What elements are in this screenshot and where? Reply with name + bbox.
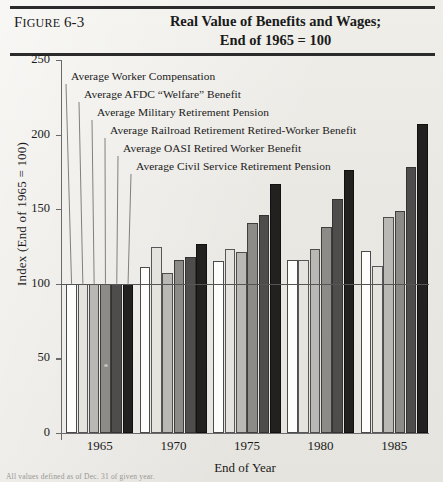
bar (66, 284, 77, 433)
figure-label-prefix: F (14, 14, 23, 30)
bar (213, 261, 224, 433)
bar (151, 247, 162, 434)
title-line-1: Real Value of Benefits and Wages; (120, 12, 431, 31)
bar (372, 266, 383, 433)
bar (111, 284, 122, 433)
bar (100, 284, 111, 433)
bar (78, 284, 89, 433)
bar (196, 244, 207, 433)
bar (270, 184, 281, 433)
y-axis-tick-label: 100 (4, 276, 50, 291)
header-rule-top (10, 6, 435, 9)
y-axis-tick-label: 250 (4, 52, 50, 67)
bar (321, 227, 332, 433)
bar (298, 260, 309, 433)
bar (162, 273, 173, 433)
x-axis-label: 1985 (364, 438, 424, 454)
x-axis (61, 433, 429, 434)
bar (361, 251, 372, 433)
figure-number: FIGURE 6-3 (14, 14, 85, 31)
page-title: Real Value of Benefits and Wages; End of… (120, 12, 431, 50)
y-axis-tick-label: 150 (4, 201, 50, 216)
bar (310, 249, 321, 433)
figure-label-rest: IGURE (23, 16, 61, 30)
bar (259, 215, 270, 433)
bar (344, 170, 355, 433)
bar (174, 260, 185, 433)
bar (406, 167, 417, 433)
chart: Index (End of 1965 = 100) End of Year 05… (0, 56, 443, 482)
bar (89, 284, 100, 433)
reference-line-100 (61, 284, 429, 285)
x-axis-label: 1970 (143, 438, 203, 454)
bar (332, 199, 343, 433)
bar (417, 124, 428, 433)
bar (236, 252, 247, 433)
bar (225, 249, 236, 433)
bar (395, 211, 406, 433)
x-axis-label: 1965 (70, 438, 130, 454)
bar (123, 284, 134, 433)
y-axis-tick-label: 50 (4, 350, 50, 365)
figure-page: FIGURE 6-3 Real Value of Benefits and Wa… (0, 0, 443, 482)
bar (140, 267, 151, 433)
bars-plot-area (61, 60, 429, 433)
y-axis-tick-label: 0 (4, 425, 50, 440)
bar (287, 260, 298, 433)
x-axis-label: 1980 (291, 438, 351, 454)
y-axis-tick-label: 200 (4, 127, 50, 142)
bar (247, 223, 258, 433)
x-axis-label: 1975 (217, 438, 277, 454)
figure-number-value: 6-3 (64, 14, 85, 30)
y-axis-tick (56, 433, 62, 434)
paper-speck (104, 364, 108, 367)
title-line-2: End of 1965 = 100 (120, 31, 431, 50)
footnote-text: All values defined as of Dec. 31 of give… (6, 472, 206, 481)
bar (383, 217, 394, 433)
